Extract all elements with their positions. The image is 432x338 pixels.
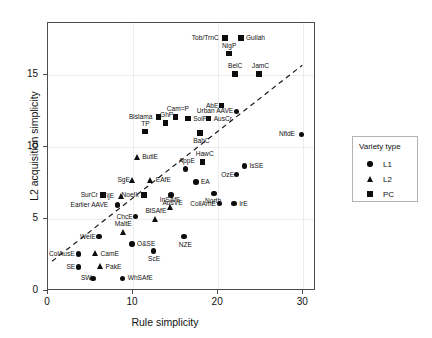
point-label: SurCr	[81, 192, 98, 199]
x-tick	[217, 290, 218, 294]
point-label: EA	[201, 179, 210, 186]
point-label: NZE	[179, 242, 192, 249]
point-label: O&SE	[137, 241, 155, 248]
point-label: EAfE	[156, 177, 171, 184]
legend-label: PC	[383, 190, 394, 199]
marker-pc-icon	[197, 130, 203, 136]
y-tick	[43, 290, 47, 291]
y-tick-label: 0	[8, 284, 38, 295]
point-label: IsSE	[249, 163, 263, 170]
legend-item-pc[interactable]: PC	[353, 187, 417, 201]
marker-l2-icon	[152, 216, 158, 222]
point-label: Urban AAVE	[197, 108, 234, 115]
x-tick	[47, 290, 48, 294]
plot-area	[47, 22, 315, 290]
point-label: IrE	[239, 201, 247, 208]
point-label: CamE	[100, 251, 118, 258]
marker-l1-icon	[129, 241, 135, 247]
x-axis-title: Rule simplicity	[0, 316, 330, 328]
y-tick	[43, 146, 47, 147]
gridline-horizontal	[48, 75, 314, 76]
marker-pc-icon	[206, 116, 212, 122]
marker-l1-icon	[76, 251, 82, 257]
x-tick	[302, 290, 303, 294]
marker-l2-icon	[97, 263, 103, 269]
point-label: BahC	[193, 138, 210, 145]
marker-pc-icon	[226, 51, 232, 57]
point-label: InSAfE	[160, 197, 181, 204]
gridline-horizontal	[48, 147, 314, 148]
legend-item-l1[interactable]: L1	[353, 157, 417, 171]
marker-pc-icon	[256, 71, 262, 77]
point-label: OzE	[221, 172, 234, 179]
legend-label: L1	[383, 160, 392, 169]
scatter-plot-figure: L2 acquisition simplicity Rule simplicit…	[0, 0, 432, 338]
point-label: GhP	[160, 112, 173, 119]
marker-l2-icon	[134, 154, 140, 160]
point-label: NfldE	[279, 131, 295, 138]
legend-label: L2	[383, 175, 392, 184]
point-label: MaltE	[115, 221, 132, 228]
marker-pc-icon	[163, 120, 169, 126]
point-label: WelE	[80, 234, 96, 241]
gridline-vertical	[218, 23, 219, 289]
point-label: SgE	[117, 177, 129, 184]
marker-pc-icon	[200, 159, 206, 165]
marker-l2-icon	[167, 204, 173, 210]
x-tick-label: 20	[202, 296, 232, 307]
marker-l1-icon	[115, 202, 121, 208]
marker-pc-icon	[232, 71, 238, 77]
point-label: BlSAfE	[145, 208, 166, 215]
y-tick-label: 5	[8, 212, 38, 223]
point-label: Earlier AAVE	[71, 202, 109, 209]
point-label: NoeIk	[121, 192, 138, 199]
marker-l2-icon	[147, 177, 153, 183]
marker-pc-icon	[185, 116, 191, 122]
marker-pc-icon	[238, 35, 244, 41]
legend-item-l2[interactable]: L2	[353, 172, 417, 186]
point-label: BelC	[228, 63, 242, 70]
x-tick	[132, 290, 133, 294]
marker-l2-icon	[92, 250, 98, 256]
marker-pc-icon	[142, 129, 148, 135]
point-label: Tob/TrnC	[192, 35, 219, 42]
marker-l1-icon	[151, 248, 157, 254]
point-label: FijE	[103, 193, 114, 200]
marker-l1-icon	[242, 163, 248, 169]
point-label: ScE	[148, 256, 160, 263]
marker-l1-icon	[211, 191, 217, 197]
point-label: ColAusE	[49, 251, 75, 258]
point-label: NigP	[222, 43, 236, 50]
point-label: SW	[81, 275, 92, 282]
point-label: JamC	[252, 63, 269, 70]
marker-l1-icon	[193, 179, 199, 185]
marker-pc-icon	[222, 35, 228, 41]
marker-pc-icon	[141, 192, 147, 198]
point-label: CollAmE	[190, 201, 216, 208]
point-label: SE	[66, 264, 75, 271]
marker-l1-icon	[76, 264, 82, 270]
x-tick-label: 0	[32, 296, 62, 307]
legend-title: Variety type	[359, 142, 401, 151]
point-label: HawC	[196, 151, 214, 158]
marker-pc-icon	[173, 114, 179, 120]
y-tick-label: 15	[8, 68, 38, 79]
point-label: WhSAfE	[128, 275, 153, 282]
legend-box: Variety type L1L2PC	[352, 136, 418, 202]
point-label: ButlE	[142, 154, 158, 161]
marker-l2-icon	[120, 229, 126, 235]
point-label: Gullah	[246, 35, 265, 42]
point-label: ChcE	[116, 214, 132, 221]
x-tick-label: 30	[287, 296, 317, 307]
gridline-vertical	[303, 23, 304, 289]
gridline-horizontal	[48, 219, 314, 220]
point-label: PakE	[106, 264, 122, 271]
marker-l2-icon	[129, 177, 135, 183]
y-tick	[43, 74, 47, 75]
point-label: AusCr	[214, 116, 232, 123]
point-label: TP	[141, 121, 149, 128]
y-tick	[43, 218, 47, 219]
y-tick-label: 10	[8, 140, 38, 151]
point-label: AppE	[179, 158, 195, 165]
x-tick-label: 10	[117, 296, 147, 307]
